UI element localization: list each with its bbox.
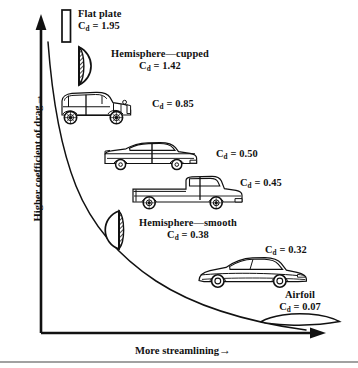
cd-symbol: C: [279, 301, 287, 312]
label-airfoil: Airfoil Cd = 0.07: [258, 289, 342, 312]
cd-value: = 0.50: [230, 148, 257, 159]
cd-value: = 0.45: [254, 177, 281, 188]
label-pickup-truck: Cd = 0.45: [240, 177, 282, 189]
flat-plate-name: Flat plate: [78, 8, 121, 20]
cd-value: = 0.85: [166, 98, 193, 109]
y-axis-label-text: Higher coefficient of drag: [32, 106, 43, 222]
pickup-truck-cd: Cd = 0.45: [240, 177, 282, 189]
cd-symbol: C: [152, 98, 160, 109]
cd-subscript: d: [273, 249, 277, 257]
cd-value: = 0.32: [279, 244, 306, 255]
cd-subscript: d: [287, 306, 291, 314]
flat-plate-icon: [62, 10, 71, 42]
airfoil-icon: [261, 314, 340, 325]
modern-sedan-icon: [199, 258, 306, 288]
y-axis-label: Higher coefficient of drag→: [30, 58, 45, 258]
cd-value: = 0.38: [182, 229, 209, 240]
cd-symbol: C: [216, 148, 224, 159]
y-axis-label-arrow: →: [30, 94, 44, 106]
cd-value: = 1.95: [92, 20, 119, 31]
label-classic-sedan: Cd = 0.50: [216, 148, 258, 160]
x-axis-label: More streamlining→: [41, 343, 325, 358]
label-modern-sedan: Cd = 0.32: [265, 244, 307, 256]
cd-symbol: C: [265, 244, 273, 255]
vintage-sedan-cd: Cd = 0.85: [152, 98, 194, 110]
airfoil-cd: Cd = 0.07: [258, 301, 342, 313]
pickup-truck-icon: [133, 176, 242, 208]
cd-subscript: d: [175, 234, 179, 242]
cd-value: = 1.42: [154, 60, 181, 71]
cd-symbol: C: [240, 177, 248, 188]
cd-subscript: d: [160, 103, 164, 111]
hemisphere-cupped-icon: [79, 47, 91, 85]
cd-subscript: d: [86, 25, 90, 33]
classic-sedan-cd: Cd = 0.50: [216, 148, 258, 160]
x-axis-label-text: More streamlining: [135, 345, 219, 356]
drag-coefficient-figure: Higher coefficient of drag→ More streaml…: [0, 0, 358, 368]
x-axis-label-arrow: →: [219, 343, 231, 357]
airfoil-name: Airfoil: [258, 289, 342, 301]
classic-sedan-icon: [105, 143, 197, 170]
cd-symbol: C: [139, 60, 147, 71]
cd-subscript: d: [224, 153, 228, 161]
hemisphere-smooth-name: Hemisphere—smooth: [139, 217, 237, 229]
label-vintage-sedan: Cd = 0.85: [152, 98, 194, 110]
vintage-sedan-icon: [62, 92, 131, 123]
hemisphere-smooth-cd: Cd = 0.38: [139, 229, 237, 241]
label-flat-plate: Flat plate Cd = 1.95: [78, 8, 121, 31]
modern-sedan-cd: Cd = 0.32: [265, 244, 307, 256]
cd-value: = 0.07: [294, 301, 321, 312]
cd-subscript: d: [147, 65, 151, 73]
hemisphere-smooth-icon: [105, 211, 123, 249]
cd-symbol: C: [167, 229, 175, 240]
label-hemisphere-cupped: Hemisphere—cupped Cd = 1.42: [111, 48, 209, 71]
flat-plate-cd: Cd = 1.95: [78, 20, 121, 32]
label-hemisphere-smooth: Hemisphere—smooth Cd = 0.38: [139, 217, 237, 240]
cd-subscript: d: [248, 182, 252, 190]
hemisphere-cupped-cd: Cd = 1.42: [111, 60, 209, 72]
hemisphere-cupped-name: Hemisphere—cupped: [111, 48, 209, 60]
cd-symbol: C: [78, 20, 86, 31]
